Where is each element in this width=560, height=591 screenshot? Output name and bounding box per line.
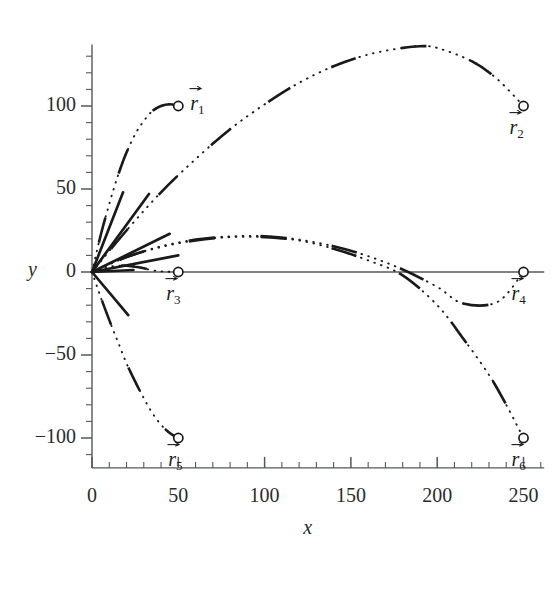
trajectory-dotted <box>92 46 524 272</box>
vector-subscript-r6: 6 <box>519 458 526 473</box>
vector-subscript-r2: 2 <box>517 126 524 141</box>
y-tick-label-100: 100 <box>46 93 76 116</box>
x-tick-label-0: 0 <box>87 484 97 507</box>
x-tick-label-200: 200 <box>422 484 452 507</box>
endpoint-marker-r1 <box>174 101 183 110</box>
trajectory-dashes <box>92 237 524 438</box>
trajectory-dotted <box>92 236 524 306</box>
series-trajectory-to-r2 <box>92 46 524 272</box>
endpoint-label-r1: r1 <box>190 92 204 118</box>
vector-subscript-r3: 3 <box>174 292 181 307</box>
x-tick-label-150: 150 <box>336 484 366 507</box>
figure-canvas: 050100150200250100500−50−100xyr1r2r3r4r5… <box>0 0 560 591</box>
vector-arrow-icon <box>511 439 524 447</box>
y-axis-title: y <box>28 258 37 281</box>
vector-letter-r5: r <box>168 448 176 470</box>
vector-letter-r1: r <box>190 92 198 114</box>
endpoint-label-r6: r6 <box>512 448 526 474</box>
y-tick-label--50: −50 <box>45 342 76 365</box>
vector-subscript-r5: 5 <box>176 458 183 473</box>
x-tick-label-50: 50 <box>168 484 188 507</box>
vector-letter-r6: r <box>512 448 520 470</box>
vector-arrow-icon <box>189 83 202 91</box>
x-axis-title: x <box>303 516 312 539</box>
y-tick-label-0: 0 <box>66 259 76 282</box>
series-trajectory-to-r4 <box>92 236 524 306</box>
vector-subscript-r4: 4 <box>519 292 526 307</box>
vector-glyph-r4: r <box>512 282 520 305</box>
vector-letter-r4: r <box>512 282 520 304</box>
series-trajectory-to-r6 <box>92 237 524 438</box>
vector-glyph-r6: r <box>512 448 520 471</box>
trajectory-dotted <box>92 237 524 438</box>
endpoint-label-r3: r3 <box>166 282 180 308</box>
vector-subscript-r1: 1 <box>198 102 205 117</box>
vector-glyph-r5: r <box>168 448 176 471</box>
velocity-vector-v6 <box>92 272 128 315</box>
endpoint-label-r4: r4 <box>512 282 526 308</box>
y-tick-label--100: −100 <box>35 425 76 448</box>
vector-glyph-r1: r <box>190 92 198 115</box>
vector-glyph-r2: r <box>510 116 518 139</box>
velocity-vector-v4 <box>92 255 178 272</box>
x-tick-label-100: 100 <box>250 484 280 507</box>
y-tick-label-50: 50 <box>56 176 76 199</box>
vector-letter-r2: r <box>510 116 518 138</box>
endpoint-label-r2: r2 <box>510 116 524 142</box>
vector-arrow-icon <box>165 273 178 281</box>
x-tick-label-250: 250 <box>509 484 539 507</box>
vector-arrow-icon <box>509 107 522 115</box>
vector-arrow-icon <box>167 439 180 447</box>
vector-glyph-r3: r <box>166 282 174 305</box>
trajectory-dashes <box>92 236 524 306</box>
vector-arrow-icon <box>511 273 524 281</box>
trajectory-plot <box>0 0 560 591</box>
vector-letter-r3: r <box>166 282 174 304</box>
trajectory-dashes <box>92 46 524 272</box>
endpoint-label-r5: r5 <box>168 448 182 474</box>
